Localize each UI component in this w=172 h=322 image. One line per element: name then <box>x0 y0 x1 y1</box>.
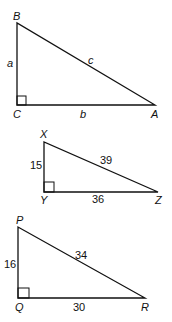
vertex-label-q: Q <box>15 301 24 313</box>
right-angle-marker-y <box>44 182 54 192</box>
right-angle-marker-c <box>17 96 26 105</box>
side-label-30: 30 <box>73 301 85 313</box>
triangle-xyz-outline <box>44 142 158 192</box>
side-label-39: 39 <box>100 154 112 166</box>
side-label-16: 16 <box>4 258 16 270</box>
right-angle-marker-q <box>18 288 29 298</box>
vertex-label-y: Y <box>40 194 48 206</box>
vertex-label-x: X <box>39 128 48 140</box>
side-label-34: 34 <box>75 249 87 261</box>
vertex-label-z: Z <box>154 194 163 206</box>
vertex-label-p: P <box>16 214 24 226</box>
triangle-pqr: P Q R 16 30 34 <box>4 214 149 313</box>
triangle-abc-outline <box>17 23 155 105</box>
triangle-pqr-outline <box>18 227 145 298</box>
vertex-label-a: A <box>150 108 158 120</box>
triangle-abc: B C A a b c <box>7 10 158 120</box>
side-label-36: 36 <box>92 193 104 205</box>
vertex-label-r: R <box>141 301 149 313</box>
side-label-15: 15 <box>30 159 42 171</box>
triangle-xyz: X Y Z 15 36 39 <box>30 128 163 206</box>
side-label-c: c <box>88 54 94 66</box>
side-label-b: b <box>80 108 86 120</box>
vertex-label-b: B <box>13 10 20 22</box>
diagram-canvas: B C A a b c X Y Z 15 36 39 P Q R 16 30 3… <box>0 0 172 322</box>
side-label-a: a <box>7 57 13 69</box>
vertex-label-c: C <box>13 108 21 120</box>
